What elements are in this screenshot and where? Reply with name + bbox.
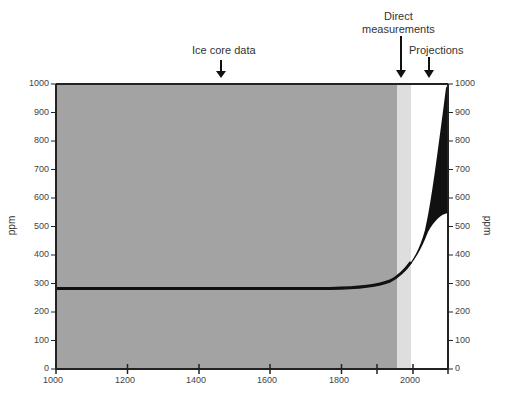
direct-measurements-region [397,84,411,369]
annotation-direct: Direct [384,10,413,22]
annotation-ice-core-data: Ice core data [192,44,256,56]
annotation-measurements: measurements [362,23,435,35]
y-tick-right: 900 [455,107,470,117]
y-tick-left: 400 [34,249,49,259]
y-tick-right: 600 [455,192,470,202]
x-tick: 2000 [400,375,420,385]
arrow-ice-core-icon [216,60,226,78]
x-tick: 1000 [43,375,63,385]
y-tick-left: 600 [34,192,49,202]
y-tick-left: 500 [34,221,49,231]
y-tick-left: 900 [34,107,49,117]
y-tick-right: 100 [455,335,470,345]
y-tick-right: 1000 [455,78,475,88]
x-tick: 1400 [186,375,206,385]
annotation-projections: Projections [409,44,463,56]
arrow-direct-measurements-icon [396,36,406,78]
chart-canvas [0,0,506,397]
y-tick-left: 0 [44,363,49,373]
y-tick-left: 100 [34,335,49,345]
x-tick: 1800 [329,375,349,385]
ice-core-region [56,84,397,369]
x-tick: 1600 [257,375,277,385]
y-tick-right: 800 [455,135,470,145]
y-tick-right: 400 [455,249,470,259]
x-tick: 1200 [115,375,135,385]
y-tick-right: 500 [455,221,470,231]
y-tick-left: 1000 [29,78,49,88]
y-tick-right: 200 [455,306,470,316]
y-tick-right: 0 [455,363,460,373]
y-tick-left: 800 [34,135,49,145]
y-tick-right: 700 [455,164,470,174]
y-axis-label-left: ppm [6,216,17,235]
arrow-projections-icon [424,57,434,78]
y-tick-left: 200 [34,306,49,316]
y-axis-label-right: ppm [482,216,493,235]
y-tick-left: 300 [34,278,49,288]
y-tick-right: 300 [455,278,470,288]
y-tick-left: 700 [34,164,49,174]
